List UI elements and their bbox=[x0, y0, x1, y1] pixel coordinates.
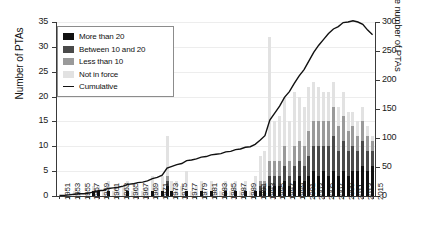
x-axis-labels: 1951195319551957195919611963196519671969… bbox=[0, 176, 430, 234]
x-tick-label: 1993 bbox=[268, 183, 277, 200]
legend-label: Not in force bbox=[79, 70, 118, 79]
y2-tick-label: 50 bbox=[382, 161, 412, 171]
legend-item-more-than-20: More than 20 bbox=[63, 31, 168, 42]
x-tick bbox=[373, 196, 374, 199]
x-tick-label: 1995 bbox=[278, 183, 287, 200]
y-tick bbox=[52, 72, 56, 73]
y-tick-label: 20 bbox=[22, 91, 48, 101]
x-tick-label: 1985 bbox=[229, 183, 238, 200]
x-tick bbox=[108, 196, 109, 199]
y2-tick bbox=[376, 138, 380, 139]
legend-swatch-icon bbox=[63, 71, 74, 78]
y2-tick-label: 250 bbox=[382, 45, 412, 55]
x-tick bbox=[118, 196, 119, 199]
x-tick bbox=[363, 196, 364, 199]
legend-swatch-icon bbox=[63, 33, 74, 40]
legend-label: More than 20 bbox=[79, 32, 124, 41]
y2-tick-label: 200 bbox=[382, 74, 412, 84]
x-tick bbox=[284, 196, 285, 199]
x-tick bbox=[177, 196, 178, 199]
x-tick-label: 1951 bbox=[63, 183, 72, 200]
x-tick-label: 2015 bbox=[376, 183, 385, 200]
x-tick-label: 1981 bbox=[210, 183, 219, 200]
x-tick bbox=[245, 196, 246, 199]
y-tick-label: 30 bbox=[22, 41, 48, 51]
x-tick-label: 1971 bbox=[161, 183, 170, 200]
x-tick-label: 1987 bbox=[239, 183, 248, 200]
legend-line-icon bbox=[63, 86, 74, 87]
x-tick-label: 1989 bbox=[249, 183, 258, 200]
x-tick bbox=[236, 196, 237, 199]
x-tick bbox=[99, 196, 100, 199]
x-tick bbox=[324, 196, 325, 199]
y2-tick-label: 300 bbox=[382, 16, 412, 26]
x-tick-label: 2003 bbox=[317, 183, 326, 200]
x-tick bbox=[353, 196, 354, 199]
x-tick-label: 1969 bbox=[151, 183, 160, 200]
x-tick bbox=[69, 196, 70, 199]
x-tick-label: 1979 bbox=[200, 183, 209, 200]
y-tick bbox=[52, 22, 56, 23]
x-tick bbox=[196, 196, 197, 199]
y2-tick bbox=[376, 167, 380, 168]
y-tick-label: 5 bbox=[22, 165, 48, 175]
x-tick-label: 1953 bbox=[73, 183, 82, 200]
x-tick bbox=[343, 196, 344, 199]
y-tick bbox=[52, 47, 56, 48]
x-tick bbox=[187, 196, 188, 199]
y-tick-label: 10 bbox=[22, 140, 48, 150]
x-tick-label: 2013 bbox=[366, 183, 375, 200]
y-tick bbox=[52, 171, 56, 172]
x-tick bbox=[89, 196, 90, 199]
x-tick-label: 2005 bbox=[327, 183, 336, 200]
legend-item-cumulative: Cumulative bbox=[63, 81, 168, 92]
y-tick bbox=[52, 121, 56, 122]
y2-tick bbox=[376, 109, 380, 110]
x-tick bbox=[157, 196, 158, 199]
x-tick-label: 1959 bbox=[102, 183, 111, 200]
chart-legend: More than 20 Between 10 and 20 Less than… bbox=[57, 26, 174, 97]
y2-tick bbox=[376, 22, 380, 23]
x-tick-label: 1991 bbox=[259, 183, 268, 200]
x-tick bbox=[138, 196, 139, 199]
y-tick bbox=[52, 146, 56, 147]
x-tick bbox=[275, 196, 276, 199]
x-tick bbox=[148, 196, 149, 199]
x-tick-label: 1963 bbox=[122, 183, 131, 200]
y2-tick-label: 100 bbox=[382, 132, 412, 142]
x-tick bbox=[216, 196, 217, 199]
x-tick bbox=[255, 196, 256, 199]
x-tick bbox=[79, 196, 80, 199]
x-tick-label: 2009 bbox=[347, 183, 356, 200]
x-tick bbox=[333, 196, 334, 199]
x-tick bbox=[314, 196, 315, 199]
x-tick-label: 1975 bbox=[180, 183, 189, 200]
x-tick-label: 1961 bbox=[112, 183, 121, 200]
x-tick-label: 1965 bbox=[131, 183, 140, 200]
legend-swatch-icon bbox=[63, 58, 74, 65]
x-tick-label: 1977 bbox=[190, 183, 199, 200]
x-tick bbox=[294, 196, 295, 199]
x-tick-label: 1967 bbox=[141, 183, 150, 200]
x-tick bbox=[265, 196, 266, 199]
y-tick bbox=[52, 97, 56, 98]
legend-item-not-in-force: Not in force bbox=[63, 69, 168, 80]
y2-tick bbox=[376, 80, 380, 81]
y-tick-label: 35 bbox=[22, 16, 48, 26]
x-tick-label: 1999 bbox=[298, 183, 307, 200]
y-tick-label: 15 bbox=[22, 115, 48, 125]
x-tick bbox=[128, 196, 129, 199]
x-tick bbox=[167, 196, 168, 199]
legend-item-less-than-10: Less than 10 bbox=[63, 56, 168, 67]
legend-item-between-10-and-20: Between 10 and 20 bbox=[63, 44, 168, 55]
legend-swatch-icon bbox=[63, 46, 74, 53]
x-tick-label: 1973 bbox=[171, 183, 180, 200]
x-tick-label: 1983 bbox=[220, 183, 229, 200]
x-tick-label: 1955 bbox=[83, 183, 92, 200]
y2-tick-label: 150 bbox=[382, 103, 412, 113]
legend-label: Less than 10 bbox=[79, 57, 123, 66]
x-tick-label: 1997 bbox=[288, 183, 297, 200]
legend-label: Cumulative bbox=[79, 82, 118, 91]
x-tick-label: 2007 bbox=[337, 183, 346, 200]
chart-container: Number of PTAs Cumulative number of PTAs… bbox=[0, 0, 430, 235]
